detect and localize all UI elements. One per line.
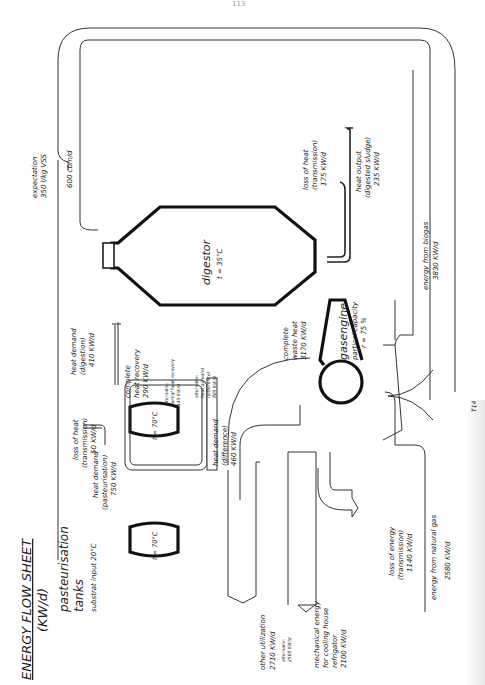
svg-text:alternativ:: alternativ: [194, 374, 199, 398]
svg-text:mechanical energy: mechanical energy [313, 600, 321, 668]
svg-text:600 cbm/d: 600 cbm/d [66, 150, 74, 188]
svg-text:loss of heat: loss of heat [72, 419, 80, 460]
svg-text:partical capacity: partical capacity [351, 301, 359, 361]
svg-text:energy from natural gas: energy from natural gas [430, 515, 438, 600]
mechanical-energy-arrow [288, 452, 316, 612]
svg-text:refrigator: refrigator [331, 634, 339, 668]
energy-natural-gas-label: energy from natural gas 2580 KW/d [430, 515, 452, 600]
substrat-input-label: substrat input 20°C [90, 543, 98, 612]
gasengine-flywheel [320, 361, 362, 403]
svg-text:heat demand: heat demand [70, 328, 78, 375]
expectation-label: expectation 350 l/kg VSS 600 cbm/d [31, 150, 74, 198]
svg-text:alternativ:: alternativ: [164, 382, 169, 406]
heat-demand-digestion-label: heat demand (digestion) 410 KW/d [70, 328, 96, 375]
svg-text:460 KW/d: 460 KW/d [230, 432, 238, 466]
svg-text:partial heat recovery: partial heat recovery [170, 358, 175, 407]
digestor-vessel [112, 207, 315, 305]
svg-text:(pasteurisation): (pasteurisation) [101, 454, 109, 510]
gasengine-label: gasengine partical capacity r = 75 % [337, 301, 368, 361]
natural-gas-channel [385, 392, 425, 612]
heat-loss-pipe [327, 182, 345, 257]
loss-energy-trans-label: loss of energy (transmission) 1140 KW/d [388, 526, 414, 580]
svg-text:complete: complete [124, 365, 132, 398]
svg-text:(transmission): (transmission) [81, 418, 89, 468]
sludge-output-pipe [327, 128, 353, 262]
svg-text:350 l/kg VSS: 350 l/kg VSS [40, 153, 48, 198]
tanks-label: tanks [72, 579, 86, 612]
other-utilization-label: other utilization 2710 KW/d [259, 615, 277, 670]
svg-text:heat demand: heat demand [200, 368, 205, 398]
svg-text:heat demand: heat demand [92, 451, 100, 498]
svg-text:for cooling house: for cooling house [322, 608, 330, 668]
svg-text:(difference): (difference) [221, 425, 229, 466]
tank1-temp: t = 70°C [151, 531, 159, 560]
alt-other-util-label: alternativ: 2565 KW/d [281, 637, 292, 662]
page-title: ENERGY FLOW SHEET [19, 538, 34, 680]
svg-text:235 KW/d: 235 KW/d [373, 152, 381, 186]
svg-text:(transmission): (transmission) [397, 530, 405, 580]
svg-text:energy from biogas: energy from biogas [422, 221, 430, 290]
svg-text:750 KW/d: 750 KW/d [110, 462, 118, 496]
svg-text:loss of heat: loss of heat [302, 149, 310, 190]
svg-text:heat recovery: heat recovery [133, 348, 141, 398]
biogas-funnel [383, 300, 433, 440]
svg-text:2565 KW/d: 2565 KW/d [287, 637, 292, 662]
pasteurisation-label: pasteurisation [57, 526, 71, 613]
energy-biogas-label: energy from biogas 3830 KW/d [422, 221, 440, 290]
svg-text:heat output: heat output [355, 151, 363, 192]
mechanical-energy-label: mechanical energy for cooling house refr… [313, 600, 348, 668]
svg-text:digestor: digestor [200, 238, 213, 285]
page-unit: (KW/d) [35, 588, 50, 632]
svg-text:290 KW/d: 290 KW/d [142, 364, 150, 398]
svg-text:complete: complete [282, 327, 290, 360]
heat-demand-diff-label: heat demand (difference) 460 KW/d [212, 419, 238, 466]
svg-text:gasengine: gasengine [337, 303, 350, 360]
svg-text:loss of energy: loss of energy [388, 526, 396, 576]
heat-recovery-pipe [112, 322, 121, 385]
heat-output-sludge-label: heat output (digested sludge) 235 KW/d [355, 137, 381, 198]
complete-heat-recovery-label: complete heat recovery 290 KW/d [124, 348, 150, 398]
svg-text:other utilization: other utilization [259, 615, 267, 670]
other-utilization-arrow [228, 462, 256, 603]
digestor-neck [103, 243, 114, 268]
svg-text:3830 KW/d: 3830 KW/d [432, 241, 440, 280]
svg-text:805 KW/d: 805 KW/d [212, 376, 217, 398]
loss-energy-arrow [318, 452, 358, 517]
svg-text:3170 KW/d: 3170 KW/d [300, 321, 308, 360]
energy-flow-diagram: ENERGY FLOW SHEET (KW/d) pasteurisation … [0, 0, 485, 685]
svg-text:expectation: expectation [31, 157, 39, 199]
margin-mark: T14 [470, 401, 477, 412]
loss-heat-digestor-label: loss of heat (transmission) 175 KW/d [302, 140, 328, 190]
complete-waste-heat-label: complete waste heat 3170 KW/d [282, 321, 308, 360]
svg-text:(difference): (difference) [206, 371, 211, 398]
svg-text:2100 KW/d: 2100 KW/d [340, 629, 348, 668]
svg-text:410 KW/d: 410 KW/d [88, 333, 96, 367]
biogas-channel [395, 70, 413, 345]
heat-demand-past-label: heat demand (pasteurisation) 750 KW/d [92, 451, 118, 510]
digestor-label: digestor t = 35°C [200, 238, 224, 285]
svg-text:145 KW/d: 145 KW/d [176, 384, 181, 406]
svg-text:2710 KW/d: 2710 KW/d [269, 631, 277, 670]
svg-text:2580 KW/d: 2580 KW/d [444, 541, 452, 580]
tank2-temp: t = 70°C [151, 411, 159, 440]
alt-heat-demand-diff-label: alternativ: heat demand (difference) 805… [194, 368, 217, 398]
svg-text:t = 35°C: t = 35°C [216, 249, 224, 279]
svg-text:175 KW/d: 175 KW/d [320, 152, 328, 186]
svg-text:(digestion): (digestion) [79, 337, 87, 375]
svg-text:1140 KW/d: 1140 KW/d [406, 533, 414, 572]
svg-text:waste heat: waste heat [291, 321, 299, 360]
svg-text:(digested sludge): (digested sludge) [364, 137, 372, 198]
svg-text:r = 75 %: r = 75 % [360, 317, 368, 348]
outer-loop-inner [80, 40, 430, 400]
svg-text:(transmission): (transmission) [311, 140, 319, 190]
svg-text:heat demand: heat demand [212, 419, 220, 466]
svg-text:50 KW/d: 50 KW/d [90, 424, 98, 454]
alt-partial-recovery-label: alternativ: partial heat recovery 145 KW… [164, 358, 181, 407]
svg-text:alternativ:: alternativ: [281, 638, 286, 662]
